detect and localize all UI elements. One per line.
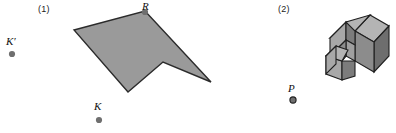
point-p-label: P xyxy=(288,82,295,94)
figure-canvas: (1) (2) K′ R K P xyxy=(0,0,396,133)
point-r-label: R xyxy=(142,0,149,12)
solid-face-front-step xyxy=(342,61,355,80)
point-k-prime-label: K′ xyxy=(6,35,16,47)
arrow-polygon xyxy=(74,11,211,92)
point-k-label: K xyxy=(94,100,101,112)
panel-2-graphics xyxy=(290,15,389,103)
panel-2-caption: (2) xyxy=(278,4,290,14)
point-p-dot xyxy=(290,97,296,103)
point-k-prime-dot xyxy=(9,51,15,57)
panel-1-graphics xyxy=(9,9,211,123)
figure-graphics xyxy=(0,0,396,133)
panel-1-caption: (1) xyxy=(38,4,50,14)
point-k-dot xyxy=(96,117,102,123)
